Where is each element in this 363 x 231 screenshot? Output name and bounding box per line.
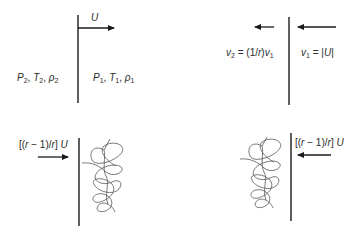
turbulence-squiggle bbox=[82, 139, 123, 212]
equation-text: = (1/ bbox=[235, 47, 258, 58]
state-2-label: P2, T2, ρ2 bbox=[17, 72, 58, 84]
subscript: 2 bbox=[24, 77, 28, 84]
velocity-label-u: U bbox=[91, 12, 98, 24]
flow-velocity-label: [(r − 1)/r] U bbox=[295, 137, 344, 149]
subscript: 1 bbox=[100, 77, 104, 84]
state-1-label: P1, T1, ρ1 bbox=[93, 72, 134, 84]
pressure-symbol: P bbox=[17, 72, 24, 83]
subscript: 1 bbox=[115, 77, 119, 84]
equation-text: | bbox=[331, 47, 334, 58]
panel-bottom-left bbox=[38, 138, 123, 226]
velocity-symbol: U bbox=[336, 137, 343, 148]
subscript: 2 bbox=[54, 77, 58, 84]
equation-text: − 1)/ bbox=[28, 139, 51, 150]
subscript: 1 bbox=[130, 77, 134, 84]
pressure-symbol: P bbox=[93, 72, 100, 83]
v1-equation-label: v1 = |U| bbox=[301, 47, 334, 59]
velocity-symbol: U bbox=[60, 139, 67, 150]
equation-text: = | bbox=[310, 47, 324, 58]
equation-text: − 1)/ bbox=[304, 137, 327, 148]
panel-top-right bbox=[255, 17, 336, 105]
turbulence-squiggle bbox=[240, 137, 281, 208]
piston-velocity-label: [(r − 1)/r] U bbox=[19, 139, 68, 151]
panel-top-left bbox=[78, 15, 114, 103]
diagram-canvas bbox=[0, 0, 363, 231]
subscript: 1 bbox=[270, 52, 274, 59]
v2-equation-label: v2 = (1/r)v1 bbox=[226, 47, 274, 59]
subscript: 2 bbox=[39, 77, 43, 84]
